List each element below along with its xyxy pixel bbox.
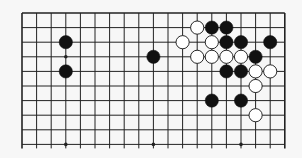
black-stone [234, 94, 247, 107]
board-background [0, 0, 302, 158]
white-stone [220, 50, 233, 63]
black-stone [220, 21, 233, 34]
white-stone [264, 65, 277, 78]
black-stone [147, 50, 160, 63]
star-point [152, 143, 156, 147]
black-stone [205, 94, 218, 107]
black-stone [234, 36, 247, 49]
white-stone [176, 36, 189, 49]
black-stone [220, 36, 233, 49]
black-stone [59, 36, 72, 49]
black-stone [205, 21, 218, 34]
white-stone [234, 50, 247, 63]
white-stone [191, 50, 204, 63]
white-stone [249, 65, 262, 78]
black-stone [264, 36, 277, 49]
white-stone [249, 109, 262, 122]
star-point [64, 55, 68, 59]
star-point [239, 143, 243, 147]
white-stone [191, 21, 204, 34]
go-board[interactable] [0, 0, 302, 158]
black-stone [59, 65, 72, 78]
white-stone [205, 36, 218, 49]
black-stone [234, 65, 247, 78]
star-point [64, 143, 68, 147]
white-stone [205, 50, 218, 63]
black-stone [220, 65, 233, 78]
white-stone [249, 79, 262, 92]
black-stone [249, 50, 262, 63]
